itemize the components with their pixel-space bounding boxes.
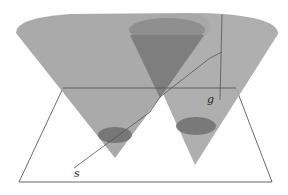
label-s: s [74,167,80,180]
section-right [176,117,216,135]
cone-diagram: g s [0,0,288,195]
label-g: g [207,93,214,106]
